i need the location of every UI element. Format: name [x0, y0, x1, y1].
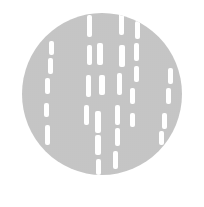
white-dash-mark: [44, 103, 49, 117]
white-dash-mark: [168, 68, 173, 84]
white-dash-mark: [45, 125, 50, 145]
white-dash-mark: [166, 88, 171, 104]
white-dash-mark: [119, 13, 124, 35]
white-dash-mark: [49, 41, 54, 55]
textured-disc: [22, 13, 182, 175]
white-dash-mark: [87, 15, 92, 37]
white-dash-mark: [87, 45, 92, 65]
white-dash-mark: [159, 131, 164, 145]
white-dash-mark: [84, 105, 89, 125]
white-dash-mark: [115, 128, 120, 146]
white-dash-mark: [115, 105, 120, 125]
white-dash-mark: [130, 113, 135, 127]
white-dash-mark: [99, 75, 105, 95]
white-dash-mark: [45, 78, 50, 94]
white-dash-mark: [134, 43, 139, 61]
white-dash-mark: [86, 75, 91, 97]
white-dash-mark: [162, 113, 167, 129]
white-dash-mark: [96, 159, 101, 175]
white-dash-mark: [97, 43, 103, 65]
white-dash-mark: [113, 151, 118, 169]
white-dash-mark: [95, 111, 101, 133]
white-dash-mark: [95, 135, 101, 155]
white-dash-mark: [134, 66, 139, 82]
white-dash-mark: [135, 21, 140, 39]
white-dash-mark: [117, 73, 122, 95]
white-dash-mark: [119, 45, 125, 67]
white-dash-mark: [48, 58, 53, 74]
white-dash-mark: [130, 88, 135, 104]
